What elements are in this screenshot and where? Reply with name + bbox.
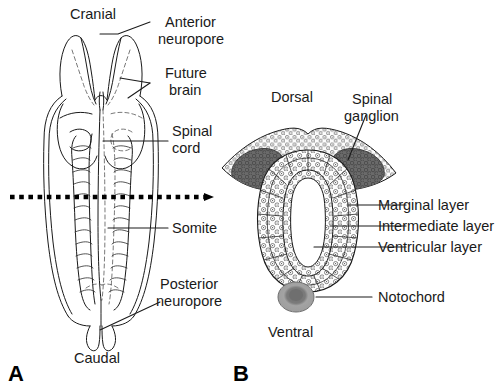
- label-anterior-neuropore-line2: neuropore: [158, 31, 224, 47]
- label-somite: Somite: [172, 220, 217, 236]
- panel-letter-a: A: [8, 361, 24, 386]
- label-intermediate-layer: Intermediate layer: [378, 218, 494, 234]
- label-spinal-cord-line1: Spinal: [172, 123, 212, 139]
- label-future-brain-line1: Future: [165, 65, 207, 81]
- figure-background: [0, 0, 504, 389]
- neural-tube: [257, 150, 359, 292]
- notochord-core: [289, 289, 303, 301]
- label-spinal-ganglion-line2: ganglion: [344, 108, 399, 124]
- label-spinal-ganglion-line1: Spinal: [352, 91, 392, 107]
- label-posterior-neuropore-line1: Posterior: [160, 276, 218, 292]
- label-ventral: Ventral: [268, 324, 313, 340]
- panel-letter-b: B: [233, 361, 249, 386]
- neural-tube-lumen: [291, 178, 326, 267]
- notochord-group: [278, 282, 314, 312]
- label-notochord: Notochord: [378, 289, 445, 305]
- label-future-brain-line2: brain: [169, 82, 201, 98]
- label-posterior-neuropore-line2: neuropore: [156, 293, 222, 309]
- label-ventricular-layer: Ventricular layer: [378, 239, 482, 255]
- label-cranial: Cranial: [70, 6, 116, 22]
- embryo-neural-development-figure: Cranial Anterior neuropore Future brain …: [0, 0, 504, 389]
- label-caudal: Caudal: [74, 350, 120, 366]
- label-spinal-cord-line2: cord: [172, 140, 200, 156]
- label-marginal-layer: Marginal layer: [378, 197, 469, 213]
- label-dorsal: Dorsal: [271, 89, 313, 105]
- figure-canvas: Cranial Anterior neuropore Future brain …: [0, 0, 504, 389]
- label-anterior-neuropore-line1: Anterior: [165, 14, 216, 30]
